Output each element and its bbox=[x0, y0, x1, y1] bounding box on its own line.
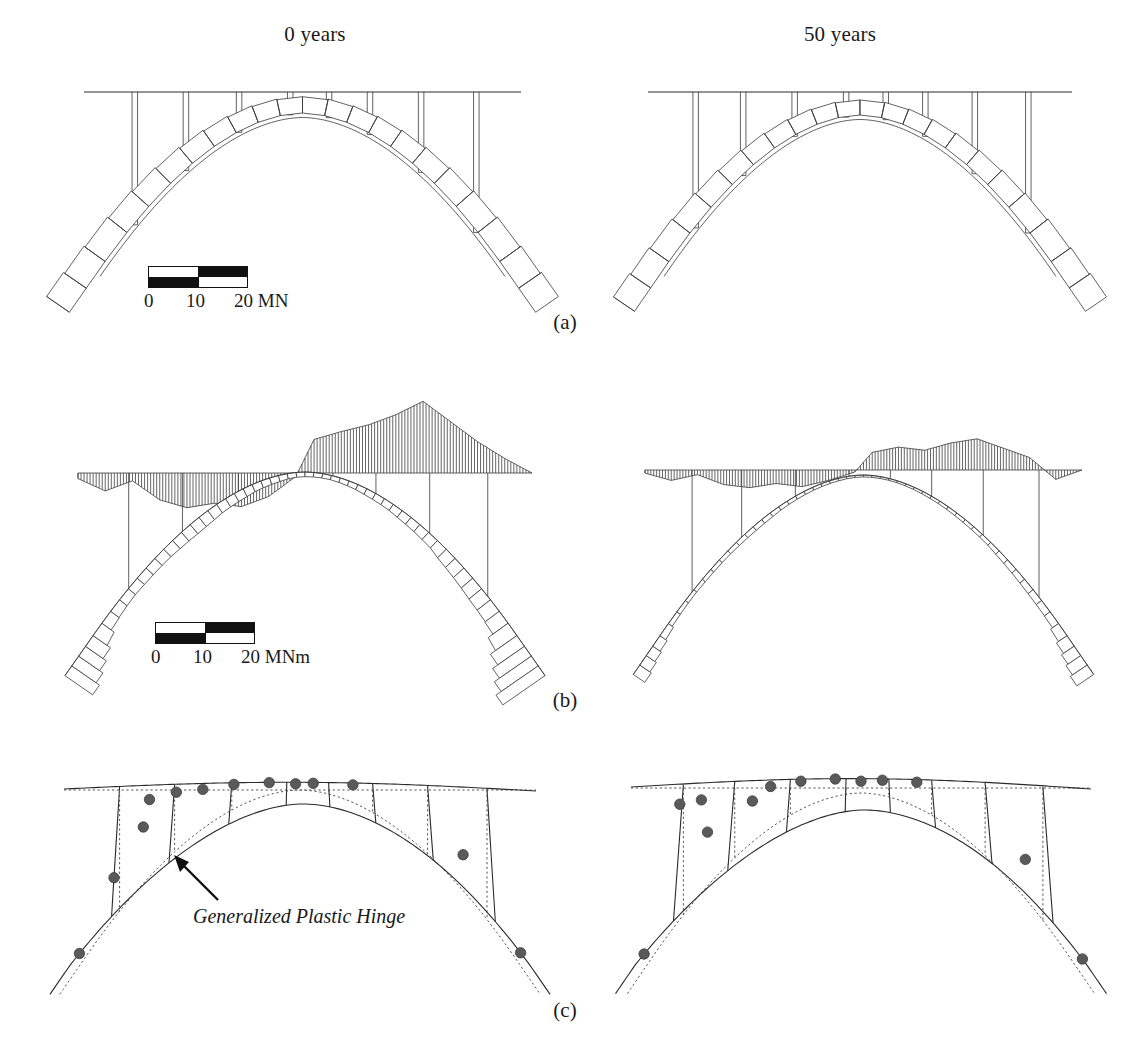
scalebar-midline bbox=[198, 267, 199, 287]
scalebar-tick-2: 20 MN bbox=[234, 290, 288, 312]
scalebar-tick-1: 10 bbox=[193, 646, 212, 668]
hinge-arrow-shaft bbox=[179, 861, 218, 900]
plastic-hinge-marker bbox=[229, 779, 239, 789]
plastic-hinge-marker bbox=[765, 781, 775, 791]
plastic-hinge-marker bbox=[198, 784, 208, 794]
arch-moment-cell bbox=[677, 601, 689, 615]
figure-root: 0 years 50 years (a) (b) (c) 0 10 20 MN … bbox=[0, 0, 1130, 1050]
scalebar-segment bbox=[156, 633, 205, 643]
plastic-hinge-marker bbox=[747, 796, 757, 806]
arch-moment-cell bbox=[694, 579, 705, 592]
plastic-hinge-marker bbox=[290, 779, 300, 789]
plastic-hinge-marker bbox=[877, 775, 887, 785]
deformed-arch bbox=[616, 810, 1107, 994]
deformed-column bbox=[985, 783, 992, 864]
deformed-column bbox=[286, 782, 287, 805]
scalebar-segment bbox=[149, 277, 198, 287]
plastic-hinge-marker bbox=[830, 774, 840, 784]
scalebar-bending-moment-box bbox=[155, 622, 255, 644]
panel-c-group bbox=[50, 774, 1107, 995]
column-title-50-years: 50 years bbox=[740, 22, 940, 47]
deformed-column bbox=[728, 782, 735, 871]
diagram-canvas bbox=[0, 0, 1130, 1050]
axial-force-block bbox=[277, 97, 303, 116]
deck-moment-outline bbox=[78, 401, 532, 507]
scalebar-segment bbox=[149, 267, 198, 277]
scalebar-axial-force: 0 10 20 MN bbox=[148, 266, 338, 312]
deformed-column bbox=[845, 779, 846, 812]
plastic-hinge-marker bbox=[308, 778, 318, 788]
column-title-0-years: 0 years bbox=[215, 22, 415, 47]
arch-moment-cell bbox=[685, 590, 696, 603]
scalebar-segment bbox=[198, 277, 247, 287]
arch-intrados bbox=[100, 118, 505, 277]
arch-moment-cell bbox=[947, 507, 957, 516]
deformed-column bbox=[487, 789, 495, 922]
scalebar-tick-1: 10 bbox=[186, 290, 205, 312]
arch-intrados bbox=[664, 120, 1056, 277]
panel-label-c: (c) bbox=[525, 998, 605, 1023]
arch-moment-cell bbox=[668, 612, 680, 626]
scalebar-tick-0: 0 bbox=[151, 646, 161, 668]
arch-moment-cell bbox=[711, 560, 722, 572]
plastic-hinge-marker bbox=[138, 822, 148, 832]
scalebar-segment bbox=[205, 633, 254, 643]
plastic-hinge-marker bbox=[1020, 854, 1030, 864]
axial-force-block bbox=[835, 100, 860, 118]
scalebar-segment bbox=[205, 623, 254, 633]
scalebar-tick-2: 20 MNm bbox=[241, 646, 310, 668]
plastic-hinge-marker bbox=[458, 850, 468, 860]
deformed-column bbox=[373, 784, 376, 823]
plastic-hinge-marker bbox=[264, 777, 274, 787]
scalebar-axial-force-ticks: 0 10 20 MN bbox=[148, 290, 338, 312]
deformed-column bbox=[428, 786, 434, 860]
scalebar-bending-moment: 0 10 20 MNm bbox=[155, 622, 345, 668]
scalebar-bending-moment-ticks: 0 10 20 MNm bbox=[155, 646, 345, 668]
deformed-column bbox=[889, 779, 891, 813]
plastic-hinge-marker bbox=[74, 948, 84, 958]
axial-force-block bbox=[303, 97, 329, 116]
plastic-hinge-marker bbox=[348, 780, 358, 790]
plastic-hinge-marker bbox=[1077, 954, 1087, 964]
deformed-column bbox=[786, 780, 790, 833]
scalebar-axial-force-box bbox=[148, 266, 248, 288]
deformed-column bbox=[932, 780, 936, 827]
plastic-hinge-marker bbox=[796, 776, 806, 786]
plastic-hinge-marker bbox=[856, 776, 866, 786]
deformed-column bbox=[329, 783, 330, 807]
scalebar-segment bbox=[156, 623, 205, 633]
plastic-hinge-marker bbox=[639, 949, 649, 959]
hinge-arrow-group bbox=[174, 855, 218, 900]
arch-moment-cell bbox=[719, 551, 730, 563]
plastic-hinge-marker bbox=[912, 777, 922, 787]
plastic-hinge-marker bbox=[675, 799, 685, 809]
arch-axis bbox=[633, 475, 1093, 674]
scalebar-segment bbox=[198, 267, 247, 277]
deformed-column bbox=[112, 787, 120, 917]
plastic-hinge-annotation: Generalized Plastic Hinge bbox=[193, 905, 405, 928]
arch-moment-cell bbox=[702, 569, 713, 581]
plastic-hinge-marker bbox=[144, 794, 154, 804]
plastic-hinge-marker bbox=[171, 787, 181, 797]
arch-moment-cell bbox=[938, 501, 948, 509]
original-arch bbox=[627, 793, 1094, 994]
plastic-hinge-marker bbox=[696, 795, 706, 805]
plastic-hinge-marker bbox=[702, 827, 712, 837]
axial-force-block bbox=[860, 100, 885, 118]
deformed-column bbox=[1043, 787, 1053, 923]
plastic-hinge-marker bbox=[109, 873, 119, 883]
arch-moment-cell bbox=[296, 472, 305, 477]
panel-label-a: (a) bbox=[525, 310, 605, 335]
scalebar-midline bbox=[205, 623, 206, 643]
scalebar-tick-0: 0 bbox=[144, 290, 154, 312]
panel-label-b: (b) bbox=[525, 688, 605, 713]
plastic-hinge-marker bbox=[515, 948, 525, 958]
deformed-arch bbox=[50, 804, 550, 994]
